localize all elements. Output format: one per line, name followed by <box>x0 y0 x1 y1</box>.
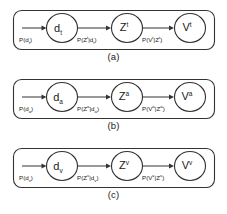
panel-b-caption: (b) <box>0 120 227 131</box>
figure-three-modality-graphical-models: dt Zt Vt P(dt) P(Zt|dt) P(Vt|Zt) da Za <box>0 0 227 214</box>
panel-b-edge-prior-label: P(da) <box>19 105 33 114</box>
panel-c-edge-z-to-v-label: P(Vv|Zv) <box>142 173 164 181</box>
panel-b-edge-prior-arrowhead <box>42 95 47 100</box>
panel-c-node-v-label: Vv <box>182 159 193 171</box>
panel-a-edge-z-to-v-label: P(Vt|Zt) <box>142 35 162 43</box>
panel-b-edge-d-to-z-label: P(Za|da) <box>77 104 99 114</box>
panel-a-node-v-circle <box>175 14 206 43</box>
panel-b-edge-d-to-z-arrowhead <box>106 95 111 100</box>
panel-b-edge-z-to-v-label: P(Va|Za) <box>142 104 165 112</box>
panel-c-edge-d-to-z-arrowhead <box>106 164 111 169</box>
panel-a-caption: (a) <box>0 51 227 62</box>
panel-c: dv Zv Vv P(dv) P(Zv|dv) P(Vv|Zv) <box>0 138 227 214</box>
panel-a-node-z-label: Zt <box>120 21 129 33</box>
panel-c-node-d-label: dv <box>53 160 63 174</box>
panel-a-node-d-label: dt <box>54 22 62 36</box>
panel-c-edge-z-to-v-arrowhead <box>169 164 174 169</box>
panel-a-node-v-label: Vt <box>182 21 191 33</box>
panel-c-edge-prior-arrowhead <box>42 164 47 169</box>
panel-b-edge-z-to-v-arrowhead <box>169 95 174 100</box>
panel-b-node-v-label: Va <box>182 90 193 102</box>
panel-b-node-z-circle <box>112 83 143 112</box>
panel-c-caption: (c) <box>0 189 227 200</box>
panel-b-node-v-circle <box>175 83 206 112</box>
panel-c-edge-prior-label: P(dv) <box>19 174 33 183</box>
panel-b-node-z-label: Za <box>119 90 130 102</box>
panel-b-node-d-label: da <box>53 91 63 105</box>
panel-a-edge-prior-arrowhead <box>42 26 47 31</box>
panel-c-node-z-label: Zv <box>119 159 130 171</box>
panel-a-edge-prior-label: P(dt) <box>19 36 32 45</box>
panel-a-node-d-circle <box>47 14 78 43</box>
panel-c-node-z-circle <box>112 152 143 181</box>
panel-c-node-v-circle <box>175 152 206 181</box>
panel-a-edge-d-to-z-arrowhead <box>106 26 111 31</box>
panel-a-edge-d-to-z-label: P(Zt|dt) <box>77 35 97 45</box>
panel-c-edge-d-to-z-label: P(Zv|dv) <box>77 173 99 183</box>
panel-a-node-z-circle <box>112 14 143 43</box>
panel-a-edge-z-to-v-arrowhead <box>169 26 174 31</box>
